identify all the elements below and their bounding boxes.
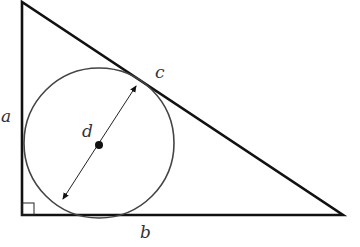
diameter-arrow [99,86,136,143]
label-b: b [140,222,151,242]
triangle-figure [0,0,360,247]
center-point [95,141,103,149]
label-c: c [155,62,165,82]
diagram: a b c d [0,0,360,247]
label-d: d [82,121,93,141]
label-a: a [1,106,11,126]
right-angle-marker [22,203,34,215]
diameter-arrow [63,143,99,199]
right-triangle [22,2,343,215]
